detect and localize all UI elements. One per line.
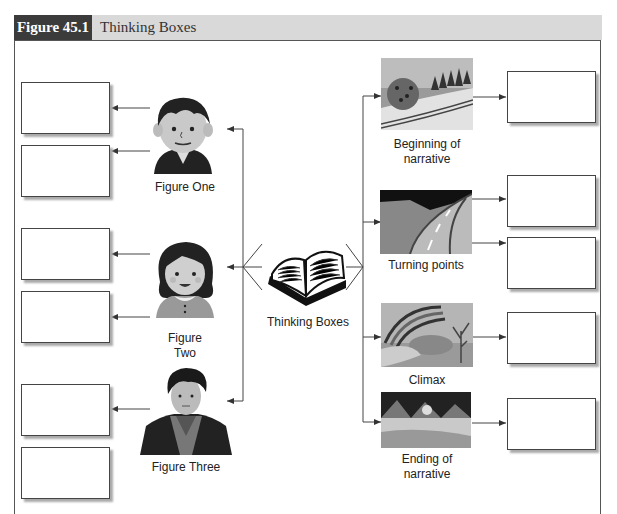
landscape-trees-icon: [381, 58, 473, 130]
sunset-mountains-icon: [381, 392, 471, 448]
center-label: Thinking Boxes: [260, 315, 356, 330]
character-box-3b[interactable]: [21, 447, 110, 499]
turning-points-box-a[interactable]: [507, 175, 596, 227]
ending-label-line1: Ending of: [371, 452, 483, 467]
ending-box[interactable]: [507, 398, 596, 450]
climax-label: Climax: [371, 373, 483, 388]
beginning-label-line2: narrative: [371, 152, 483, 167]
character-box-1a[interactable]: [21, 82, 110, 134]
character-box-1b[interactable]: [21, 145, 110, 197]
ending-label: Ending of narrative: [371, 452, 483, 482]
boy-cartoon-icon: [150, 94, 216, 174]
character-box-3a[interactable]: [21, 384, 110, 436]
figure-two-label-line2: Two: [145, 346, 225, 361]
rainbow-landscape-icon: [381, 303, 473, 367]
figure-one-label: Figure One: [145, 180, 225, 195]
beginning-box[interactable]: [507, 71, 596, 123]
beginning-label-line1: Beginning of: [371, 137, 483, 152]
character-box-2b[interactable]: [21, 291, 110, 343]
open-book-icon: [266, 246, 348, 306]
character-box-2a[interactable]: [21, 228, 110, 280]
ending-label-line2: narrative: [371, 467, 483, 482]
turning-points-label: Turning points: [370, 258, 482, 273]
turning-points-box-b[interactable]: [507, 237, 596, 289]
winding-road-icon: [380, 190, 472, 254]
figure-two-label-line1: Figure: [145, 331, 225, 346]
beginning-label: Beginning of narrative: [371, 137, 483, 167]
figure-three-label: Figure Three: [140, 460, 232, 475]
figure-two-label: Figure Two: [145, 331, 225, 361]
girl-cartoon-icon: [152, 240, 218, 318]
woman-portrait-icon: [140, 366, 232, 455]
climax-box[interactable]: [507, 312, 596, 364]
